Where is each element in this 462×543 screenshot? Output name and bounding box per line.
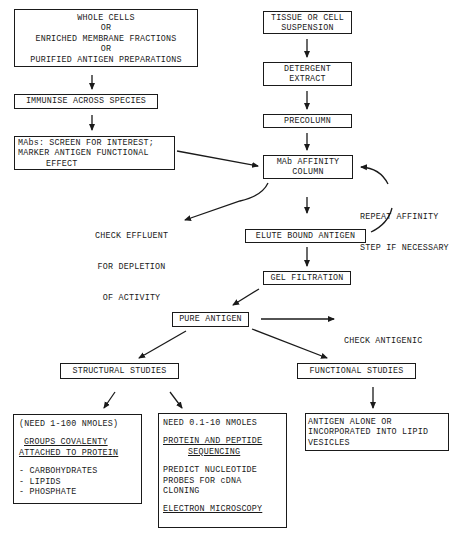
immunise-label: IMMUNISE ACROSS SPECIES xyxy=(15,96,157,106)
tissue-box: TISSUE OR CELL SUSPENSION xyxy=(263,11,352,34)
arrow-gel-to-pure xyxy=(233,289,259,305)
elute-box: ELUTE BOUND ANTIGEN xyxy=(245,229,366,243)
functional-detail-box: ANTIGEN ALONE OR INCORPORATED INTO LIPID… xyxy=(305,413,449,451)
detergent-line-2: EXTRACT xyxy=(264,74,351,84)
small-predict-2: PROBES FOR cDNA xyxy=(163,476,282,486)
large-heading-1: GROUPS COVALENTY xyxy=(24,437,108,447)
large-need: (NEED 1-100 NMOLES) xyxy=(19,419,136,429)
large-item-lipids: - LIPIDS xyxy=(19,477,136,487)
large-heading-2: ATTACHED TO PROTEIN xyxy=(19,448,118,458)
structural-small-box: NEED 0.1-10 NMOLES PROTEIN AND PEPTIDE S… xyxy=(158,413,287,528)
tissue-line-2: SUSPENSION xyxy=(264,23,351,33)
arrow-pure-to-functional xyxy=(252,329,327,358)
check-effluent-note: CHECK EFFLUENT FOR DEPLETION OF ACTIVITY xyxy=(95,210,168,314)
pure-antigen-box: PURE ANTIGEN xyxy=(172,312,249,327)
screen-line-1: MAbs: SCREEN FOR INTEREST; xyxy=(18,138,171,148)
functional-line-2: INCORPORATED INTO LIPID xyxy=(308,427,446,437)
effluent-line-1: CHECK EFFLUENT xyxy=(95,231,168,241)
immunise-box: IMMUNISE ACROSS SPECIES xyxy=(14,94,158,109)
affinity-line-2: COLUMN xyxy=(264,167,352,177)
effluent-line-2: FOR DEPLETION xyxy=(95,262,168,272)
screen-line-2: MARKER ANTIGEN FUNCTIONAL xyxy=(18,148,171,158)
precolumn-label: PRECOLUMN xyxy=(264,116,351,126)
elute-label: ELUTE BOUND ANTIGEN xyxy=(246,231,365,241)
arrow-screen-to-affinity xyxy=(177,151,258,166)
structural-studies-label: STRUCTURAL STUDIES xyxy=(61,366,178,376)
sources-box: WHOLE CELLS OR ENRICHED MEMBRANE FRACTIO… xyxy=(14,9,198,67)
small-heading-2: SEQUENCING xyxy=(188,447,240,457)
functional-line-3: VESICLES xyxy=(308,438,446,448)
small-predict-1: PREDICT NUCLEOTIDE xyxy=(163,465,282,475)
functional-line-1: ANTIGEN ALONE OR xyxy=(308,417,446,427)
large-item-carbohydrates: - CARBOHYDRATES xyxy=(19,466,136,476)
arrow-structural-to-small xyxy=(170,392,182,408)
screen-line-3: EFFECT xyxy=(18,159,171,169)
arrow-affinity-to-effluent xyxy=(185,183,268,220)
sources-line-2: OR xyxy=(15,23,197,33)
structural-large-box: (NEED 1-100 NMOLES) GROUPS COVALENTY ATT… xyxy=(13,414,142,504)
repeat-affinity-note: REPEAT AFFINITY STEP IF NECESSARY xyxy=(360,191,449,264)
affinity-column-box: MAb AFFINITY COLUMN xyxy=(263,155,353,179)
sources-line-1: WHOLE CELLS xyxy=(15,13,197,23)
tissue-line-1: TISSUE OR CELL xyxy=(264,13,351,23)
small-heading-1: PROTEIN AND PEPTIDE xyxy=(163,436,262,446)
precolumn-box: PRECOLUMN xyxy=(263,114,352,128)
effluent-line-3: OF ACTIVITY xyxy=(95,293,168,303)
arrow-structural-to-large xyxy=(104,392,115,408)
functional-studies-box: FUNCTIONAL STUDIES xyxy=(297,363,416,379)
arrow-pure-to-structural xyxy=(139,331,186,358)
structural-studies-box: STRUCTURAL STUDIES xyxy=(60,363,179,379)
sources-line-5: PURIFIED ANTIGEN PREPARATIONS xyxy=(15,55,197,65)
detergent-box: DETERGENT EXTRACT xyxy=(263,62,352,86)
small-microscopy: ELECTRON MICROSCOPY xyxy=(163,504,262,514)
repeat-line-1: REPEAT AFFINITY xyxy=(360,212,449,222)
sources-line-3: ENRICHED MEMBRANE FRACTIONS xyxy=(15,34,197,44)
large-item-phosphate: - PHOSPHATE xyxy=(19,487,136,497)
small-need: NEED 0.1-10 NMOLES xyxy=(163,418,282,428)
antigenic-line-1: CHECK ANTIGENIC xyxy=(344,336,422,346)
repeat-loop-upper xyxy=(361,167,388,184)
functional-studies-label: FUNCTIONAL STUDIES xyxy=(298,366,415,376)
affinity-line-1: MAb AFFINITY xyxy=(264,157,352,167)
gel-filtration-box: GEL FILTRATION xyxy=(263,271,351,285)
detergent-line-1: DETERGENT xyxy=(264,64,351,74)
small-predict-3: CLONING xyxy=(163,486,282,496)
pure-antigen-label: PURE ANTIGEN xyxy=(173,314,248,324)
repeat-line-2: STEP IF NECESSARY xyxy=(360,243,449,253)
sources-line-4: OR xyxy=(15,44,197,54)
gel-filtration-label: GEL FILTRATION xyxy=(264,273,350,283)
screen-box: MAbs: SCREEN FOR INTEREST; MARKER ANTIGE… xyxy=(14,136,175,170)
